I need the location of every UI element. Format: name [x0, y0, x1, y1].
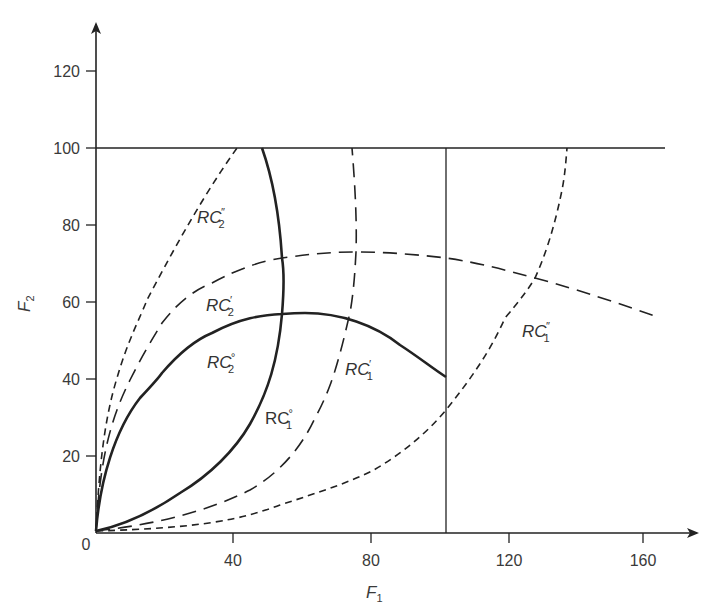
- x-ticks: [233, 533, 643, 543]
- chart-canvas: 20 40 60 80 100 120 40 80 120 160 0 F1 F…: [0, 0, 710, 614]
- y-tick-label: 120: [53, 63, 80, 80]
- label-rc1-double-prime: RC″1: [522, 320, 551, 344]
- curve-rc1-double-prime: [96, 148, 567, 531]
- label-rc2-double-prime: RC″2: [197, 206, 226, 230]
- reference-lines: [96, 148, 665, 533]
- curve-rc1-circle: [96, 148, 284, 531]
- y-tick-label: 20: [62, 448, 80, 465]
- y-axis-title: F2: [15, 295, 36, 312]
- curves: [96, 148, 655, 531]
- curve-rc1-prime: [96, 148, 356, 531]
- y-tick-labels: 20 40 60 80 100 120: [53, 63, 80, 465]
- label-rc1-circle: RC°1: [265, 407, 293, 431]
- axes: [96, 24, 697, 533]
- x-tick-label: 160: [630, 552, 657, 569]
- x-axis-title: F1: [366, 583, 383, 604]
- curve-rc2-prime: [96, 252, 655, 531]
- y-tick-label: 40: [62, 371, 80, 388]
- x-tick-label: 80: [362, 552, 380, 569]
- y-tick-label: 100: [53, 140, 80, 157]
- y-ticks: [86, 71, 96, 456]
- curve-rc2-double-prime: [96, 148, 237, 531]
- label-rc2-circle: RC°2: [207, 351, 236, 375]
- label-rc1-prime: RC′1: [345, 358, 373, 382]
- label-rc2-prime: RC′2: [206, 294, 234, 318]
- x-tick-labels: 40 80 120 160: [224, 552, 656, 569]
- x-tick-label: 120: [496, 552, 523, 569]
- origin-label: 0: [82, 536, 91, 553]
- x-tick-label: 40: [224, 552, 242, 569]
- y-tick-label: 80: [62, 217, 80, 234]
- y-tick-label: 60: [62, 294, 80, 311]
